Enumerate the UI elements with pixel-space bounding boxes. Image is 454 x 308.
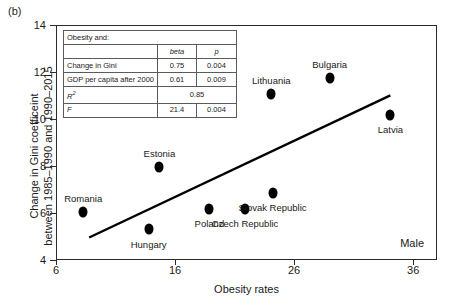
x-tick-mark: [294, 260, 295, 265]
table-row-f: F 21.4 0.004: [64, 103, 237, 117]
stats-row-beta-0: 0.75: [158, 59, 197, 73]
data-point: [155, 162, 164, 173]
stats-row-beta-1: 0.61: [158, 73, 197, 87]
annotation-male: Male: [400, 237, 424, 249]
table-row: GDP per capita after 2000 0.61 0.009: [64, 73, 237, 87]
stats-table-empty-header: [64, 45, 158, 59]
stats-row-p-1: 0.009: [196, 73, 236, 87]
stats-table-title: Obesity and:: [64, 31, 237, 45]
y-tick-label: 10: [34, 113, 46, 125]
y-tick-label: 6: [40, 207, 46, 219]
x-axis-title: Obesity rates: [56, 283, 437, 295]
table-row: Change in Gini 0.75 0.004: [64, 59, 237, 73]
y-tick-label: 4: [40, 254, 46, 266]
table-row-title: Obesity and:: [64, 31, 237, 45]
x-tick-mark: [56, 260, 57, 265]
stats-row-label-1: GDP per capita after 2000: [64, 73, 158, 87]
table-row-headers: beta p: [64, 45, 237, 59]
y-tick-label: 8: [40, 160, 46, 172]
data-point: [205, 204, 214, 215]
data-point-label: Hungary: [131, 239, 167, 250]
stats-row-label-0: Change in Gini: [64, 59, 158, 73]
y-tick-label: 14: [34, 19, 46, 31]
stats-table-header-beta: beta: [158, 45, 197, 59]
x-tick-label: 36: [407, 264, 419, 276]
data-point-label: Romania: [64, 192, 102, 203]
x-tick-label: 6: [53, 264, 59, 276]
data-point: [325, 72, 334, 83]
y-tick-label: 12: [34, 66, 46, 78]
table-row-r2: R2 0.85: [64, 87, 237, 104]
x-tick-mark: [413, 260, 414, 265]
data-point: [79, 206, 88, 217]
data-point: [144, 224, 153, 235]
plot-area: RomaniaHungaryEstoniaPolandCzech Republi…: [56, 25, 437, 260]
stats-r2-label: R2: [64, 87, 158, 104]
x-tick-label: 16: [169, 264, 181, 276]
figure-panel-b: (b) Change in Gini coefficeint between 1…: [0, 0, 454, 308]
x-tick-mark: [175, 260, 176, 265]
data-point-label: Czech Republic: [212, 218, 279, 229]
data-point: [386, 110, 395, 121]
data-point-label: Latvia: [378, 124, 403, 135]
y-axis: Change in Gini coefficeint between 1985–…: [0, 0, 56, 308]
data-point: [267, 89, 276, 100]
data-point-label: Estonia: [144, 148, 176, 159]
stats-f-p: 0.004: [196, 103, 236, 117]
data-point: [268, 187, 277, 198]
x-tick-label: 26: [288, 264, 300, 276]
data-point-label: Bulgaria: [312, 58, 347, 69]
data-point-label: Lithuania: [252, 75, 291, 86]
data-point-label: Slovak Republic: [238, 201, 306, 212]
stats-table: Obesity and: beta p Change in Gini 0.75 …: [63, 30, 237, 118]
stats-f-value: 21.4: [158, 103, 197, 117]
stats-r2-value: 0.85: [158, 87, 237, 104]
stats-row-p-0: 0.004: [196, 59, 236, 73]
stats-table-header-p: p: [196, 45, 236, 59]
stats-f-label: F: [64, 103, 158, 117]
